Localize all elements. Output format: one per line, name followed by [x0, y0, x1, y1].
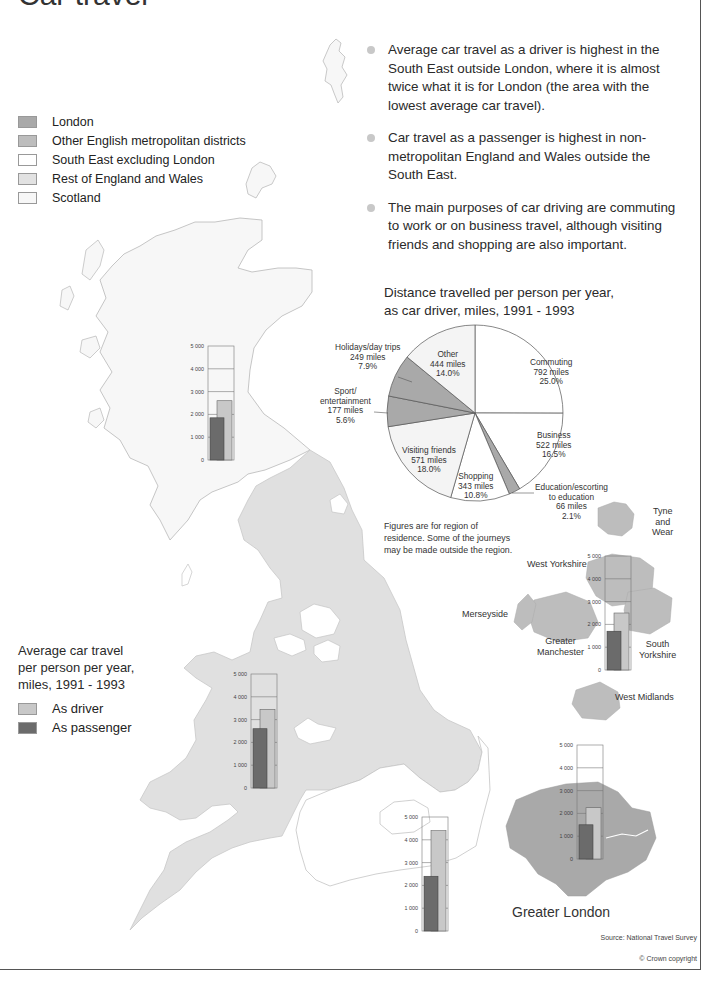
label-west-yorkshire: West Yorkshire	[527, 559, 587, 570]
svg-text:4 000: 4 000	[234, 694, 248, 700]
region-legend: London Other English metropolitan distri…	[18, 112, 246, 207]
passenger-bar	[210, 418, 224, 460]
pie-title: Distance travelled per person per year, …	[384, 284, 614, 320]
svg-text:1 000: 1 000	[560, 833, 574, 839]
label-west-midlands: West Midlands	[615, 692, 674, 703]
pie-label-business: Business522 miles16.5%	[536, 431, 572, 460]
key-points: Average car travel as a driver is highes…	[367, 41, 687, 268]
svg-text:0: 0	[201, 457, 204, 463]
legend-swatch	[18, 154, 37, 166]
svg-text:4 000: 4 000	[191, 366, 205, 372]
passenger-bar	[253, 729, 267, 788]
source-note: Source: National Travel Survey	[601, 934, 698, 941]
svg-text:3 000: 3 000	[405, 860, 419, 866]
legend-label: Other English metropolitan districts	[52, 134, 246, 148]
pie-label-holidays: Holidays/day trips249 miles7.9%	[335, 343, 400, 372]
legend-swatch	[18, 192, 37, 204]
bullet-dot-icon	[367, 204, 375, 212]
west-midlands-shape	[572, 682, 620, 720]
svg-text:0: 0	[570, 856, 573, 862]
legend-item-scotland: Scotland	[18, 188, 246, 207]
legend-label: South East excluding London	[52, 153, 215, 167]
bullet-point: Average car travel as a driver is highes…	[367, 41, 687, 115]
greater-london-caption: Greater London	[512, 904, 610, 920]
pie-label-other: Other444 miles14.0%	[430, 350, 466, 379]
northern-isles	[246, 39, 347, 198]
svg-text:2 000: 2 000	[405, 882, 419, 888]
legend-item-south-east: South East excluding London	[18, 150, 246, 169]
legend-swatch	[18, 703, 37, 715]
legend-label: London	[52, 115, 94, 129]
bullet-dot-icon	[367, 46, 375, 54]
legend-label: Scotland	[52, 191, 101, 205]
svg-text:1 000: 1 000	[588, 644, 602, 650]
legend-item-london: London	[18, 112, 246, 131]
svg-text:3 000: 3 000	[560, 788, 574, 794]
legend-label: Rest of England and Wales	[52, 172, 203, 186]
pie-label-commuting: Commuting792 miles25.0%	[530, 358, 572, 387]
legend-swatch	[18, 116, 37, 128]
bullet-point: Car travel as a passenger is highest in …	[367, 129, 687, 185]
passenger-bar	[579, 825, 593, 859]
legend-item-driver: As driver	[18, 699, 134, 718]
svg-text:5 000: 5 000	[234, 671, 248, 677]
svg-text:0: 0	[244, 785, 247, 791]
pie-footnote: Figures are for region of residence. Som…	[384, 520, 512, 556]
svg-text:2 000: 2 000	[191, 411, 205, 417]
passenger-bar	[424, 876, 438, 931]
metro-insets	[514, 502, 672, 720]
label-south-yorkshire: SouthYorkshire	[639, 639, 676, 660]
pie-label-visiting-friends: Visiting friends571 miles18.0%	[402, 446, 456, 475]
legend-swatch	[18, 135, 37, 147]
legend-item-rest-england-wales: Rest of England and Wales	[18, 169, 246, 188]
passenger-bar	[607, 631, 621, 670]
bar-legend: Average car travel per person per year, …	[18, 642, 134, 737]
svg-text:4 000: 4 000	[405, 837, 419, 843]
svg-text:2 000: 2 000	[588, 621, 602, 627]
svg-text:1 000: 1 000	[234, 762, 248, 768]
legend-swatch	[18, 173, 37, 185]
svg-text:1 000: 1 000	[191, 434, 205, 440]
copyright-note: © Crown copyright	[639, 955, 697, 962]
legend-swatch	[18, 722, 37, 734]
legend-item-metropolitan: Other English metropolitan districts	[18, 131, 246, 150]
svg-text:0: 0	[598, 667, 601, 673]
svg-text:0: 0	[415, 928, 418, 934]
pie-label-sport: Sport/entertainment177 miles5.6%	[320, 387, 371, 425]
label-greater-manchester: GreaterManchester	[537, 636, 584, 657]
svg-text:3 000: 3 000	[588, 599, 602, 605]
western-isles	[60, 240, 104, 428]
svg-text:2 000: 2 000	[560, 810, 574, 816]
svg-text:4 000: 4 000	[588, 576, 602, 582]
label-merseyside: Merseyside	[462, 609, 508, 620]
bar-legend-title: Average car travel per person per year, …	[18, 642, 134, 693]
svg-text:1 000: 1 000	[405, 905, 419, 911]
svg-text:3 000: 3 000	[191, 389, 205, 395]
svg-text:5 000: 5 000	[405, 814, 419, 820]
svg-text:5 000: 5 000	[191, 343, 205, 349]
pie-label-shopping: Shopping343 miles10.8%	[458, 472, 494, 501]
svg-text:5 000: 5 000	[588, 553, 602, 559]
svg-text:2 000: 2 000	[234, 739, 248, 745]
bullet-point: The main purposes of car driving are com…	[367, 199, 687, 255]
pie-label-education: Education/escortingto education66 miles2…	[535, 483, 608, 521]
svg-text:3 000: 3 000	[234, 717, 248, 723]
svg-text:4 000: 4 000	[560, 765, 574, 771]
label-tyne-and-wear: TyneandWear	[652, 506, 673, 538]
svg-text:5 000: 5 000	[560, 742, 574, 748]
bullet-dot-icon	[367, 134, 375, 142]
legend-item-passenger: As passenger	[18, 718, 134, 737]
